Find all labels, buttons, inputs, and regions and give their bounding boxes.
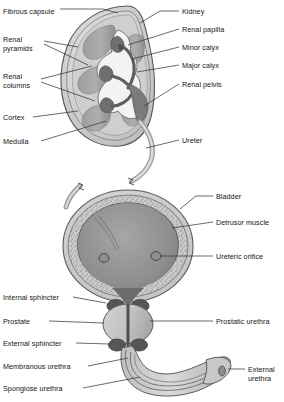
kidney-label-major-calyx: Major calyx: [182, 61, 219, 70]
bladder-label-spongiose-urethra: Spongiose urethra: [3, 384, 63, 393]
bladder-label-membranous-urethra: Membranous urethra: [3, 362, 71, 371]
kidney-label-ureter: Ureter: [182, 136, 202, 145]
bladder-label-external-sphincter: External sphincter: [3, 339, 61, 348]
kidney-label-fibrous-capsule: Fibrous capsule: [3, 7, 55, 16]
ureteric-orifice: [99, 254, 109, 263]
kidney-label-renal-columns: Renal columns: [3, 72, 30, 91]
bladder-illustration: [63, 183, 231, 396]
glans-penis: [203, 357, 231, 384]
kidney-label-cortex: Cortex: [3, 113, 24, 122]
bladder-label-internal-sphincter: Internal sphincter: [3, 293, 59, 302]
bladder-label-bladder: Bladder: [216, 192, 241, 201]
kidney-label-medulla: Medulla: [3, 137, 29, 146]
bladder-label-prostatic-urethra: Prostatic urethra: [216, 317, 270, 326]
bladder-label-external-urethra: External urethra: [248, 365, 275, 384]
bladder-label-ureteric-orifice: Ureteric orifice: [216, 252, 263, 261]
external-urethral-meatus: [219, 366, 226, 376]
kidney-illustration: [61, 6, 154, 185]
kidney-label-renal-pyramids: Renal pyramids: [3, 35, 33, 54]
kidney-label-renal-papilla: Renal papilla: [182, 25, 224, 34]
bladder-label-prostate: Prostate: [3, 317, 30, 326]
ureteric-orifice: [151, 252, 161, 261]
kidney-label-renal-pelvis: Renal pelvis: [182, 80, 222, 89]
bladder-label-detrusor-muscle: Detrusor muscle: [216, 218, 269, 227]
kidney-label-minor-calyx: Minor calyx: [182, 43, 219, 52]
kidney-label-kidney: Kidney: [182, 7, 204, 16]
